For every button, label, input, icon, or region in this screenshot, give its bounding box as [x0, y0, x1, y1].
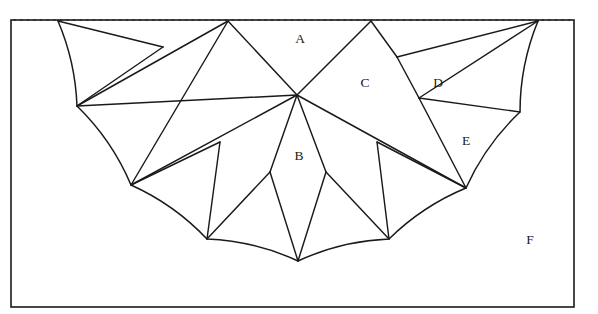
region-label-f: F [526, 232, 534, 247]
figure-container: ACDEBF [0, 0, 598, 314]
geometry-diagram: ACDEBF [0, 0, 598, 314]
region-label-c: C [360, 75, 369, 90]
region-label-d: D [433, 75, 443, 90]
region-label-b: B [294, 148, 303, 163]
region-label-a: A [295, 31, 305, 46]
region-label-e: E [462, 133, 470, 148]
